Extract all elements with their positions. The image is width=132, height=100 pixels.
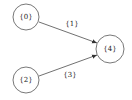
node-0: {0} bbox=[13, 4, 39, 30]
graph-diagram: {1} {3} {0} {2} {4} bbox=[0, 0, 132, 100]
node-4: {4} bbox=[96, 35, 124, 63]
node-0-label: {0} bbox=[19, 13, 32, 21]
node-2-label: {2} bbox=[19, 76, 32, 84]
edge-label-1: {1} bbox=[65, 20, 78, 28]
edge-label-3: {3} bbox=[63, 71, 76, 79]
node-2: {2} bbox=[13, 67, 39, 93]
node-4-label: {4} bbox=[103, 45, 116, 53]
